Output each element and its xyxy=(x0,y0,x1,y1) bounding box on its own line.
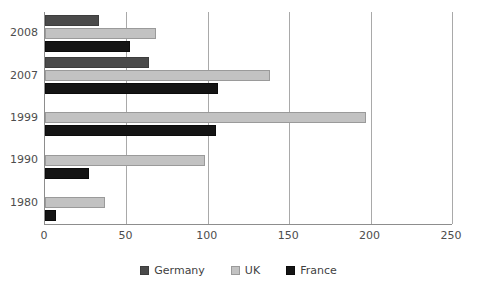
bar-group-1990 xyxy=(45,139,452,181)
x-axis-tick-100: 100 xyxy=(196,229,217,242)
legend-item-france[interactable]: France xyxy=(286,264,337,277)
x-axis-tick-50: 50 xyxy=(118,229,132,242)
bar-uk-2008 xyxy=(45,28,156,39)
bar-group-1980 xyxy=(45,182,452,224)
y-axis-label-1990: 1990 xyxy=(0,154,38,165)
bar-uk-1999 xyxy=(45,112,366,123)
bar-germany-2008 xyxy=(45,15,99,26)
y-axis-category-labels: 20082007199919901980 xyxy=(0,12,38,225)
y-axis-label-2008: 2008 xyxy=(0,27,38,38)
bar-uk-1990 xyxy=(45,155,205,166)
bar-uk-2007 xyxy=(45,70,270,81)
bar-group-1999 xyxy=(45,97,452,139)
y-axis-label-2007: 2007 xyxy=(0,70,38,81)
gridline-250 xyxy=(452,12,453,224)
legend-swatch-france-icon xyxy=(286,266,295,275)
legend-label-france: France xyxy=(300,264,337,277)
bar-france-1999 xyxy=(45,125,216,136)
chart-legend: GermanyUKFrance xyxy=(0,264,477,277)
bar-chart: 20082007199919901980 050100150200250 Ger… xyxy=(0,0,477,299)
bar-group-2008 xyxy=(45,12,452,54)
bar-france-1980 xyxy=(45,210,56,221)
x-axis-tick-0: 0 xyxy=(41,229,48,242)
legend-swatch-germany-icon xyxy=(140,266,149,275)
legend-item-uk[interactable]: UK xyxy=(231,264,260,277)
x-axis-tick-200: 200 xyxy=(359,229,380,242)
bar-france-2007 xyxy=(45,83,218,94)
plot-area xyxy=(44,12,452,225)
bar-france-1990 xyxy=(45,168,89,179)
bar-germany-2007 xyxy=(45,57,149,68)
x-axis-tick-labels: 050100150200250 xyxy=(44,229,452,245)
y-axis-label-1999: 1999 xyxy=(0,112,38,123)
bar-france-2008 xyxy=(45,41,130,52)
legend-label-germany: Germany xyxy=(154,264,205,277)
legend-label-uk: UK xyxy=(245,264,260,277)
y-axis-label-1980: 1980 xyxy=(0,197,38,208)
bar-group-2007 xyxy=(45,54,452,96)
legend-item-germany[interactable]: Germany xyxy=(140,264,205,277)
bar-uk-1980 xyxy=(45,197,105,208)
x-axis-tick-250: 250 xyxy=(441,229,462,242)
legend-swatch-uk-icon xyxy=(231,266,240,275)
x-axis-tick-150: 150 xyxy=(278,229,299,242)
